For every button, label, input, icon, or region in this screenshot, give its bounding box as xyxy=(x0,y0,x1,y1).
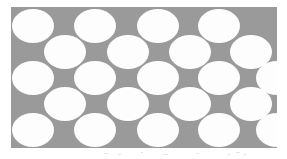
scan-speck xyxy=(163,154,168,155)
packed-circle xyxy=(44,87,86,121)
scan-artifact-strip xyxy=(0,150,287,159)
packed-circle xyxy=(198,61,240,95)
scan-speck xyxy=(104,153,108,154)
packed-circle xyxy=(12,113,54,147)
figure-root xyxy=(0,0,287,159)
scan-speck xyxy=(141,152,143,153)
packed-circle xyxy=(74,61,116,95)
scan-speck xyxy=(244,154,246,155)
packed-circle xyxy=(74,9,116,43)
packed-circle xyxy=(137,61,179,95)
packed-circle xyxy=(107,87,149,121)
packed-circle xyxy=(107,35,149,69)
scan-speck xyxy=(196,153,199,154)
packed-circle xyxy=(74,113,116,147)
packed-circle xyxy=(198,9,240,43)
packed-circle xyxy=(12,61,54,95)
packing-panel xyxy=(11,7,277,148)
scan-speck xyxy=(236,152,240,153)
packed-circle xyxy=(137,113,179,147)
packed-circle xyxy=(12,9,54,43)
packed-circle xyxy=(198,113,240,147)
scan-speck xyxy=(118,154,121,155)
packed-circle xyxy=(44,35,86,69)
scan-speck xyxy=(228,154,230,155)
packed-circle xyxy=(137,9,179,43)
